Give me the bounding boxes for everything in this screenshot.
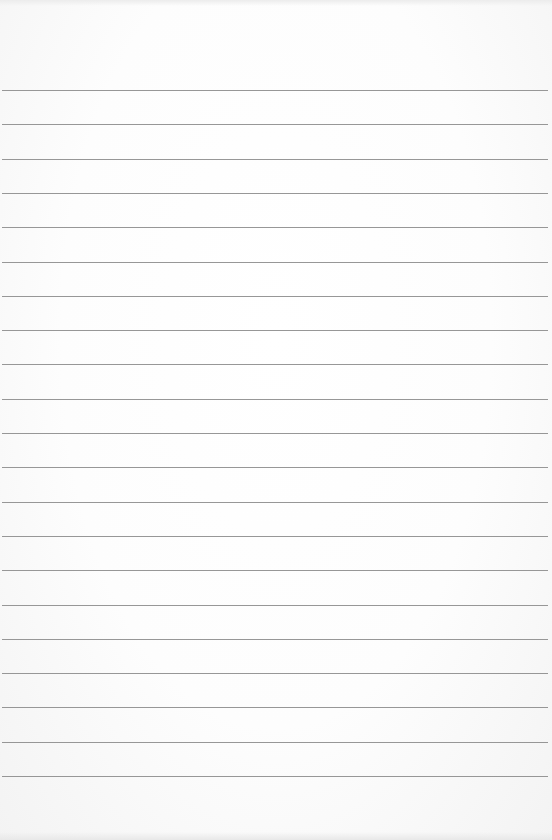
- paper-bottom-edge: [0, 832, 552, 840]
- ruled-line: [2, 776, 548, 777]
- ruled-line: [2, 90, 548, 91]
- ruled-line: [2, 639, 548, 640]
- ruled-line: [2, 159, 548, 160]
- ruled-line: [2, 502, 548, 503]
- paper-top-edge: [0, 0, 552, 6]
- ruled-line: [2, 227, 548, 228]
- ruled-line: [2, 433, 548, 434]
- ruled-line: [2, 124, 548, 125]
- ruled-line: [2, 262, 548, 263]
- ruled-line: [2, 364, 548, 365]
- ruled-line: [2, 399, 548, 400]
- ruled-line: [2, 467, 548, 468]
- ruled-line: [2, 536, 548, 537]
- lined-paper-sheet: [0, 0, 552, 840]
- ruled-line: [2, 570, 548, 571]
- ruled-line: [2, 296, 548, 297]
- ruled-line: [2, 605, 548, 606]
- ruled-line: [2, 193, 548, 194]
- ruled-line: [2, 707, 548, 708]
- ruled-line: [2, 742, 548, 743]
- ruled-line: [2, 673, 548, 674]
- ruled-line: [2, 330, 548, 331]
